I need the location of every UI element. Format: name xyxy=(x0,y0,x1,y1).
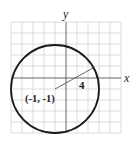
circle-diagram: y x 4 (-1, -1) xyxy=(0,0,135,142)
center-label: (-1, -1) xyxy=(25,93,55,105)
axes xyxy=(11,22,121,133)
y-axis-label: y xyxy=(62,7,69,21)
radius-line xyxy=(55,68,93,89)
x-axis-label: x xyxy=(123,71,130,85)
radius-label: 4 xyxy=(79,79,85,91)
